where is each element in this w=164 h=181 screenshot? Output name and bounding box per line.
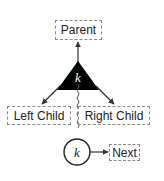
next-box: Next — [109, 144, 140, 161]
node-key-text: k — [75, 70, 81, 85]
left-child-arrow — [42, 86, 60, 104]
left-child-box: Left Child — [7, 106, 71, 125]
right-child-arrow — [96, 86, 114, 104]
right-child-box: Right Child — [78, 106, 150, 125]
parent-box: Parent — [55, 20, 102, 40]
list-key-text: k — [74, 145, 80, 160]
